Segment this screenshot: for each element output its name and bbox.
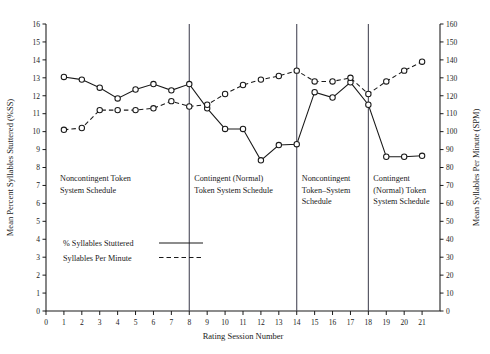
phase-label-line: Token System Schedule bbox=[194, 186, 273, 195]
phase-label-line: Schedule bbox=[302, 197, 332, 206]
x-axis-tick-label: 9 bbox=[205, 318, 209, 327]
x-axis-tick-label: 14 bbox=[293, 318, 301, 327]
y-axis-tick-label: 16 bbox=[33, 20, 41, 29]
y-axis-tick-label: 15 bbox=[33, 38, 41, 47]
data-point-marker bbox=[79, 125, 84, 130]
data-point-marker bbox=[133, 87, 138, 92]
data-point-marker bbox=[169, 98, 174, 103]
data-point-marker bbox=[419, 153, 424, 158]
data-point-marker bbox=[115, 96, 120, 101]
x-axis-tick-label: 0 bbox=[44, 318, 48, 327]
y-axis-tick-label: 5 bbox=[36, 217, 40, 226]
x-axis-tick-label: 7 bbox=[169, 318, 173, 327]
y2-axis-tick-label: 70 bbox=[446, 181, 454, 190]
y2-axis-tick-label: 140 bbox=[446, 56, 458, 65]
data-point-marker bbox=[330, 79, 335, 84]
x-axis-tick-label: 2 bbox=[80, 318, 84, 327]
phase-label-line: Token–System bbox=[302, 186, 351, 195]
y-axis-tick-label: 9 bbox=[36, 145, 40, 154]
y2-axis-tick-label: 110 bbox=[446, 109, 457, 118]
y2-axis-tick-label: 150 bbox=[446, 38, 458, 47]
x-axis-tick-label: 4 bbox=[116, 318, 120, 327]
y2-axis-tick-label: 50 bbox=[446, 217, 454, 226]
data-point-marker bbox=[276, 142, 281, 147]
data-point-marker bbox=[133, 107, 138, 112]
x-axis-tick-label: 20 bbox=[400, 318, 408, 327]
x-axis-tick-label: 1 bbox=[62, 318, 66, 327]
figure-container: 0123456789101112131415160102030405060708… bbox=[0, 0, 490, 354]
data-point-marker bbox=[294, 68, 299, 73]
data-point-marker bbox=[115, 107, 120, 112]
data-point-marker bbox=[204, 102, 209, 107]
data-point-marker bbox=[258, 158, 263, 163]
data-point-marker bbox=[222, 126, 227, 131]
x-axis-tick-label: 17 bbox=[347, 318, 355, 327]
x-axis-tick-label: 8 bbox=[187, 318, 191, 327]
data-point-marker bbox=[97, 107, 102, 112]
y-axis-tick-label: 10 bbox=[33, 127, 41, 136]
y2-axis-tick-label: 90 bbox=[446, 145, 454, 154]
y-axis-tick-label: 1 bbox=[36, 289, 40, 298]
legend-label: Syllables Per Minute bbox=[63, 254, 132, 263]
y-axis-tick-label: 3 bbox=[36, 253, 40, 262]
legend-label: % Syllables Stuttered bbox=[63, 239, 134, 248]
data-point-marker bbox=[366, 102, 371, 107]
y-axis-tick-label: 13 bbox=[33, 74, 41, 83]
y2-axis-tick-label: 0 bbox=[446, 307, 450, 316]
data-point-marker bbox=[61, 74, 66, 79]
y2-axis-tick-label: 20 bbox=[446, 271, 454, 280]
phase-label-line: System Schedule bbox=[373, 197, 430, 206]
phase-label-line: Contingent bbox=[373, 174, 410, 183]
x-axis-tick-label: 19 bbox=[383, 318, 391, 327]
y-axis-tick-label: 2 bbox=[36, 271, 40, 280]
x-axis-tick-label: 15 bbox=[311, 318, 319, 327]
y2-axis-tick-label: 40 bbox=[446, 235, 454, 244]
chart-frame bbox=[46, 24, 440, 311]
data-point-marker bbox=[169, 88, 174, 93]
data-point-marker bbox=[79, 77, 84, 82]
data-point-marker bbox=[348, 75, 353, 80]
x-axis-tick-label: 3 bbox=[98, 318, 102, 327]
y-axis-tick-label: 8 bbox=[36, 163, 40, 172]
data-point-marker bbox=[384, 154, 389, 159]
y-axis-tick-label: 12 bbox=[33, 92, 41, 101]
data-point-marker bbox=[312, 89, 317, 94]
data-point-marker bbox=[240, 126, 245, 131]
y-axis-tick-label: 11 bbox=[33, 109, 40, 118]
x-axis-tick-label: 13 bbox=[275, 318, 283, 327]
data-point-marker bbox=[151, 106, 156, 111]
y2-axis-tick-label: 100 bbox=[446, 127, 458, 136]
y-axis-tick-label: 7 bbox=[36, 181, 40, 190]
data-point-marker bbox=[384, 79, 389, 84]
data-point-marker bbox=[151, 81, 156, 86]
data-point-marker bbox=[312, 79, 317, 84]
data-point-marker bbox=[366, 91, 371, 96]
x-axis-tick-label: 6 bbox=[152, 318, 156, 327]
phase-label-line: Noncontingent bbox=[302, 174, 351, 183]
phase-label-line: (Normal) Token bbox=[373, 186, 426, 195]
x-axis-title: Rating Session Number bbox=[203, 331, 284, 341]
data-point-marker bbox=[97, 85, 102, 90]
x-axis-tick-label: 5 bbox=[134, 318, 138, 327]
data-point-marker bbox=[222, 91, 227, 96]
y-axis-tick-label: 0 bbox=[36, 307, 40, 316]
data-point-marker bbox=[419, 59, 424, 64]
y2-axis-tick-label: 120 bbox=[446, 92, 458, 101]
y-axis-tick-label: 4 bbox=[36, 235, 40, 244]
data-point-marker bbox=[330, 95, 335, 100]
data-point-marker bbox=[276, 73, 281, 78]
x-axis-tick-label: 21 bbox=[418, 318, 426, 327]
data-point-marker bbox=[401, 154, 406, 159]
y2-axis-title: Mean Syllables Per Minute (SPM) bbox=[471, 109, 481, 227]
x-axis-tick-label: 16 bbox=[329, 318, 337, 327]
x-axis-tick-label: 18 bbox=[365, 318, 373, 327]
data-point-marker bbox=[294, 141, 299, 146]
data-point-marker bbox=[258, 77, 263, 82]
y2-axis-tick-label: 130 bbox=[446, 74, 458, 83]
data-point-marker bbox=[187, 81, 192, 86]
x-axis-tick-label: 10 bbox=[221, 318, 229, 327]
y2-axis-tick-label: 10 bbox=[446, 289, 454, 298]
y-axis-tick-label: 6 bbox=[36, 199, 40, 208]
y-axis-tick-label: 14 bbox=[33, 56, 41, 65]
y2-axis-tick-label: 30 bbox=[446, 253, 454, 262]
